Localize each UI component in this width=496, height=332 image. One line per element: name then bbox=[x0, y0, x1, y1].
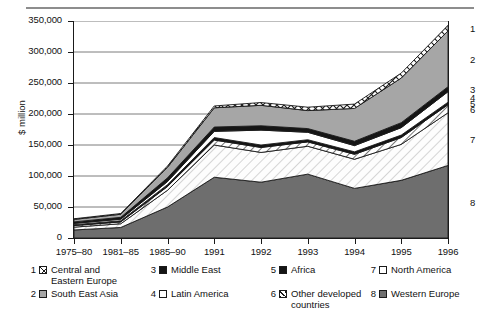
legend-item-3[interactable]: 3Middle East bbox=[148, 264, 221, 275]
x-axis-tick-mark bbox=[74, 239, 75, 244]
legend-item-number: 2 bbox=[28, 288, 36, 299]
legend-item-label: Central andEastern Europe bbox=[51, 264, 117, 286]
legend-item-number: 3 bbox=[148, 264, 156, 275]
legend-item-2[interactable]: 2South East Asia bbox=[28, 288, 118, 299]
x-axis-tick-mark bbox=[121, 239, 122, 244]
series-number-8: 8 bbox=[470, 196, 475, 207]
legend-item-label: South East Asia bbox=[51, 288, 118, 299]
legend-swatch-diagonal-hatch bbox=[279, 290, 287, 298]
legend-swatch-black bbox=[279, 266, 287, 274]
legend-item-number: 7 bbox=[368, 264, 376, 275]
legend-swatch-medium-gray bbox=[39, 290, 47, 298]
x-axis-tick-label: 1992 bbox=[251, 246, 272, 257]
series-number-1: 1 bbox=[470, 23, 475, 34]
stacked-area-chart bbox=[74, 21, 448, 238]
legend-item-label: Middle East bbox=[171, 264, 221, 275]
right-axis-line bbox=[448, 21, 449, 239]
y-axis-title: $ million bbox=[16, 83, 27, 153]
x-axis-tick-mark bbox=[355, 239, 356, 244]
y-axis-tick-label: 0 bbox=[57, 232, 62, 242]
legend-item-number: 1 bbox=[28, 264, 36, 275]
legend-swatch-white bbox=[159, 290, 167, 298]
legend-item-number: 8 bbox=[368, 288, 376, 299]
y-axis-tick-label: 100,000 bbox=[28, 170, 62, 180]
legend-item-label: Latin America bbox=[171, 288, 229, 299]
legend-item-1[interactable]: 1Central andEastern Europe bbox=[28, 264, 117, 286]
chart-plot-svg bbox=[74, 21, 448, 238]
x-axis-tick-mark bbox=[168, 239, 169, 244]
x-axis-tick-mark bbox=[214, 239, 215, 244]
legend-swatch-dark-gray bbox=[379, 290, 387, 298]
y-axis-tick-label: 300,000 bbox=[28, 46, 62, 56]
legend-item-6[interactable]: 6Other developedcountries bbox=[268, 288, 361, 310]
legend-item-5[interactable]: 5Africa bbox=[268, 264, 315, 275]
x-axis-tick-label: 1995 bbox=[391, 246, 412, 257]
y-axis-tick-label: 350,000 bbox=[28, 15, 62, 25]
x-axis-tick-label: 1981–85 bbox=[103, 246, 139, 257]
legend-item-label: Africa bbox=[291, 264, 315, 275]
y-axis-tick-label: 250,000 bbox=[28, 77, 62, 87]
legend-swatch-black bbox=[159, 266, 167, 274]
legend-item-number: 6 bbox=[268, 288, 276, 299]
top-horizontal-rule bbox=[26, 7, 474, 9]
legend-item-label: Other developedcountries bbox=[291, 288, 361, 310]
series-number-7: 7 bbox=[470, 134, 475, 145]
x-axis-tick-label: 1991 bbox=[204, 246, 225, 257]
x-axis-tick-label: 1994 bbox=[344, 246, 365, 257]
x-axis-tick-mark bbox=[401, 239, 402, 244]
x-axis-tick-label: 1975–80 bbox=[56, 246, 92, 257]
legend-item-8[interactable]: 8Western Europe bbox=[368, 288, 459, 299]
legend-item-4[interactable]: 4Latin America bbox=[148, 288, 229, 299]
series-number-2: 2 bbox=[470, 53, 475, 64]
legend-item-7[interactable]: 7North America bbox=[368, 264, 451, 275]
legend-swatch-white bbox=[379, 266, 387, 274]
x-axis-tick-mark bbox=[448, 239, 449, 244]
legend-item-label: North America bbox=[391, 264, 451, 275]
legend-item-number: 5 bbox=[268, 264, 276, 275]
x-axis-tick-mark bbox=[261, 239, 262, 244]
y-axis-tick-label: 50,000 bbox=[34, 201, 62, 211]
x-axis-tick-label: 1996 bbox=[438, 246, 459, 257]
x-axis-tick-mark bbox=[308, 239, 309, 244]
legend-swatch-cross-hatch bbox=[39, 266, 47, 274]
chart-legend: 1Central andEastern Europe2South East As… bbox=[0, 262, 496, 330]
legend-item-number: 4 bbox=[148, 288, 156, 299]
x-axis-tick-label: 1993 bbox=[297, 246, 318, 257]
series-number-6: 6 bbox=[470, 103, 475, 114]
series-areas bbox=[74, 25, 448, 238]
x-axis-tick-label: 1985–90 bbox=[149, 246, 185, 257]
y-axis-tick-label: 200,000 bbox=[28, 108, 62, 118]
y-axis-tick-label: 150,000 bbox=[28, 139, 62, 149]
legend-item-label: Western Europe bbox=[391, 288, 459, 299]
